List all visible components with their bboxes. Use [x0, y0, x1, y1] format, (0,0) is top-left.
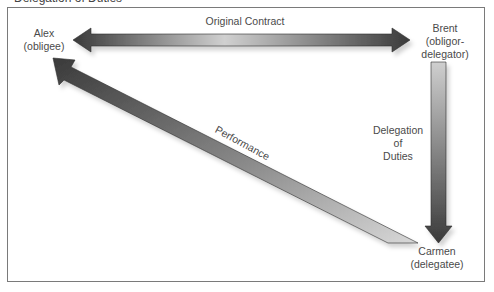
node-brent-role-line2: delegator): [412, 48, 478, 61]
edge-label-delegation-line2: of: [368, 137, 428, 150]
edge-label-original-contract: Original Contract: [190, 15, 300, 28]
node-alex-role: (obligee): [12, 40, 76, 53]
performance-arrow: [53, 58, 418, 243]
node-brent-role-line1: (obligor-: [412, 35, 478, 48]
node-carmen-role: (delegatee): [402, 258, 472, 271]
original-contract-arrow: [73, 28, 410, 52]
delegation-arrow: [425, 62, 452, 243]
node-brent: Brent (obligor- delegator): [412, 22, 478, 61]
node-alex: Alex (obligee): [12, 27, 76, 53]
node-alex-name: Alex: [12, 27, 76, 40]
node-carmen-name: Carmen: [402, 245, 472, 258]
node-brent-name: Brent: [412, 22, 478, 35]
edge-label-delegation: Delegation of Duties: [368, 124, 428, 163]
edge-label-delegation-line1: Delegation: [368, 124, 428, 137]
node-carmen: Carmen (delegatee): [402, 245, 472, 271]
edge-label-delegation-line3: Duties: [368, 150, 428, 163]
